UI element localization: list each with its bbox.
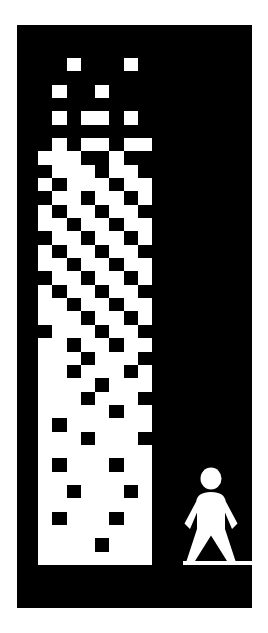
tower-cell	[67, 311, 81, 324]
tower-cell	[138, 58, 152, 71]
tower-cell	[124, 538, 138, 551]
tower-cell	[124, 352, 138, 365]
tower-cell	[67, 432, 81, 445]
poster-canvas	[0, 0, 268, 633]
tower-cell	[95, 165, 109, 178]
tower-cell	[109, 218, 123, 231]
tower-cell	[67, 85, 81, 98]
tower-cell	[38, 191, 52, 204]
tower-cell	[109, 352, 123, 365]
tower-cell	[52, 338, 66, 351]
tower-cell	[67, 378, 81, 391]
tower-cell	[52, 538, 66, 551]
tower-cell	[52, 258, 66, 271]
tower-cell	[138, 231, 152, 244]
tower-cell	[81, 352, 95, 365]
tower-cell	[124, 325, 138, 338]
tower-cell	[95, 365, 109, 378]
tower-cell	[95, 418, 109, 431]
tower-cell	[52, 498, 66, 511]
tower-cell	[52, 111, 66, 124]
tower-cell	[81, 405, 95, 418]
tower-cell	[67, 485, 81, 498]
tower-cell	[52, 205, 66, 218]
tower-cell	[81, 111, 95, 124]
tower-cell	[67, 458, 81, 471]
tower-cell	[95, 231, 109, 244]
tower-cell	[81, 311, 95, 324]
tower-cell	[124, 458, 138, 471]
tower-cell	[138, 405, 152, 418]
tower-cell	[138, 512, 152, 525]
tower-cell	[38, 552, 52, 565]
tower-cell	[95, 191, 109, 204]
tower-cell	[138, 325, 152, 338]
tower-cell	[124, 512, 138, 525]
tower-cell	[81, 165, 95, 178]
tower-cell	[109, 472, 123, 485]
tower-cell	[38, 258, 52, 271]
tower-cell	[38, 352, 52, 365]
tower-cell	[67, 325, 81, 338]
tower-cell	[67, 352, 81, 365]
tower-cell	[38, 311, 52, 324]
tower-cell	[109, 298, 123, 311]
tower-cell	[52, 125, 66, 138]
tower-cell	[81, 472, 95, 485]
tower-cell	[109, 285, 123, 298]
tower-cell	[67, 392, 81, 405]
tower-cell	[138, 311, 152, 324]
tower-cell	[38, 178, 52, 191]
standing-human-pictogram	[183, 465, 239, 565]
tower-cell	[109, 418, 123, 431]
tower-cell	[95, 405, 109, 418]
tower-cell	[95, 392, 109, 405]
tower-cell	[109, 231, 123, 244]
tower-cell	[38, 445, 52, 458]
tower-cell	[67, 245, 81, 258]
tower-cell	[67, 98, 81, 111]
tower-cell	[138, 445, 152, 458]
tower-cell	[95, 58, 109, 71]
tower-cell	[124, 552, 138, 565]
black-panel	[17, 25, 252, 608]
tower-cell	[109, 178, 123, 191]
tower-cell	[124, 178, 138, 191]
ground-line	[183, 561, 252, 565]
tower-cell	[67, 151, 81, 164]
tower-cell	[124, 111, 138, 124]
tower-cell	[38, 71, 52, 84]
tower-cell	[52, 245, 66, 258]
tower-cell	[81, 338, 95, 351]
tower-cell	[67, 472, 81, 485]
tower-cell	[138, 245, 152, 258]
tower-cell	[109, 258, 123, 271]
tower-cell	[81, 231, 95, 244]
tower-cell	[38, 205, 52, 218]
tower-cell	[95, 485, 109, 498]
tower-cell	[38, 151, 52, 164]
tower-cell	[109, 552, 123, 565]
tower-cell	[124, 298, 138, 311]
tower-cell	[109, 85, 123, 98]
tower-cell	[95, 311, 109, 324]
tower-cell	[67, 271, 81, 284]
tower-cell	[95, 325, 109, 338]
tower-cell	[95, 352, 109, 365]
tower-cell	[138, 525, 152, 538]
tower-cell	[109, 432, 123, 445]
tower-cell	[124, 258, 138, 271]
tower-cell	[95, 85, 109, 98]
tower-cell	[95, 138, 109, 151]
tower-cell	[67, 552, 81, 565]
tower-cell	[138, 352, 152, 365]
tower-cell	[38, 125, 52, 138]
tower-cell	[124, 498, 138, 511]
tower-cell	[81, 58, 95, 71]
tower-cell	[95, 552, 109, 565]
tower-cell	[38, 498, 52, 511]
tower-cell	[138, 392, 152, 405]
tower-cell	[52, 218, 66, 231]
tower-cell	[138, 178, 152, 191]
tower-cell	[138, 552, 152, 565]
